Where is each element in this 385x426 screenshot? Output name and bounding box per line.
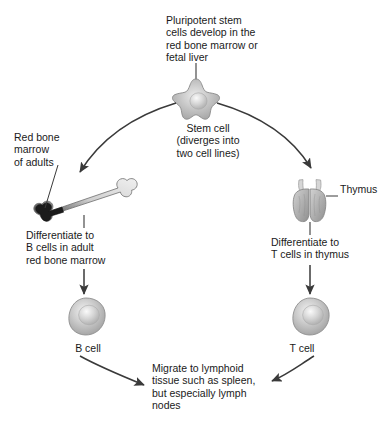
b-cell-illustration [69,298,105,335]
thymus-right-lobe [310,189,326,222]
femur-bone-illustration [34,179,137,222]
b-cell-nucleus [79,305,100,325]
caption-b-cell: B cell [66,342,110,354]
caption-differentiate-to-t-cells: Differentiate to T cells in thymus [271,236,375,261]
t-cell-nucleus [303,305,324,325]
marrow-label-leader-line [45,165,58,208]
red-bone-marrow-cavity [36,203,64,221]
caption-t-cell: T cell [280,342,324,354]
caption-red-bone-marrow-of-adults: Red bone marrow of adults [14,131,86,168]
thymus-left-lobe [293,189,309,222]
arrow-tcell-to-migrate [272,356,314,381]
caption-migrate-to-lymphoid-tissue: Migrate to lymphoid tissue such as splee… [152,362,264,412]
stem-cell-illustration [172,79,219,119]
arrow-bcell-to-migrate [80,356,144,385]
caption-stem-cell: Stem cell (diverges into two cell lines) [152,122,264,159]
caption-pluripotent-stem-cells: Pluripotent stem cells develop in the re… [166,14,284,64]
stem-cell-nucleus [190,93,207,109]
caption-thymus: Thymus [340,183,384,195]
stem-cell-differentiation-diagram: Pluripotent stem cells develop in the re… [0,0,385,426]
caption-differentiate-to-b-cells: Differentiate to B cells in adult red bo… [26,229,136,266]
t-cell-illustration [293,298,329,335]
thymus-illustration [293,180,326,222]
